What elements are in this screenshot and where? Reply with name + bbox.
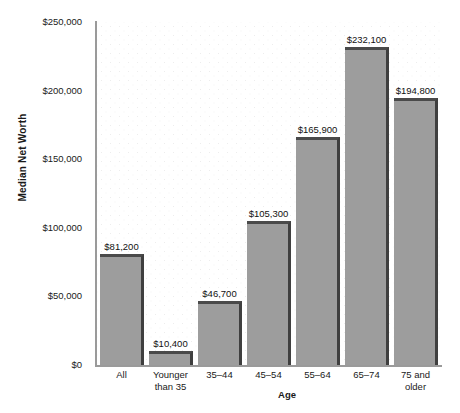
bar-value-label: $81,200: [104, 241, 138, 252]
bar-value-label: $232,100: [347, 34, 387, 45]
y-axis-tick-labels: $0$50,000$100,000$150,000$200,000$250,00…: [8, 0, 82, 413]
bar-chart: Median Net Worth $0$50,000$100,000$150,0…: [0, 0, 460, 413]
y-axis-tick-label: $150,000: [8, 153, 82, 164]
bar-value-label: $10,400: [153, 338, 187, 349]
bar: [149, 351, 193, 365]
x-axis-title-text: Age: [278, 389, 296, 400]
bar: [198, 301, 242, 365]
bar: [296, 137, 340, 365]
y-axis-tick-label: $0: [8, 359, 82, 370]
bar-value-label: $46,700: [202, 288, 236, 299]
bar: [345, 47, 389, 365]
y-axis-tick-label: $250,000: [8, 16, 82, 27]
plot-area: $81,200$10,400$46,700$105,300$165,900$23…: [97, 22, 440, 365]
y-axis-tick-label: $100,000: [8, 222, 82, 233]
bar-value-label: $194,800: [396, 85, 436, 96]
bar-value-label: $105,300: [249, 208, 289, 219]
bar: [100, 254, 144, 365]
x-axis-line: [95, 365, 442, 367]
x-axis-title: Age: [0, 389, 460, 400]
y-axis-tick-label: $50,000: [8, 290, 82, 301]
y-axis-tick-label: $200,000: [8, 85, 82, 96]
bar: [394, 98, 438, 365]
bar-value-label: $165,900: [298, 124, 338, 135]
x-axis-tick-label-line: 75 and: [382, 369, 449, 381]
bar: [247, 221, 291, 365]
